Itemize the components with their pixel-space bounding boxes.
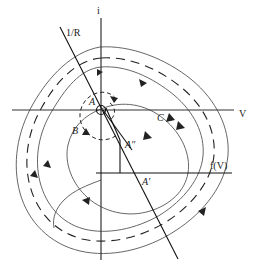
diagram-canvas: i V 1/R f(V) A B C A' A″: [0, 0, 257, 266]
flow-arrow-c: [166, 113, 175, 122]
axis-label-v: V: [239, 108, 247, 119]
flow-arrow-right-upper: [176, 121, 185, 130]
axis-label-i: i: [97, 5, 100, 16]
segment-origin-to-vertical: [106, 108, 120, 140]
flow-arrow-left: [30, 170, 38, 178]
flow-arrow-bottom: [82, 197, 90, 205]
flow-arrow-inner-right: [143, 131, 152, 140]
inner-spiral-tail: [53, 180, 101, 228]
label-point-a-double-prime: A″: [124, 139, 136, 150]
arc-arrow-a: [110, 96, 118, 103]
label-characteristic: f(V): [210, 160, 227, 172]
flow-arrow-top: [139, 79, 147, 87]
label-point-a-prime: A': [141, 176, 151, 187]
label-point-a: A: [88, 96, 96, 107]
label-point-b: B: [72, 125, 78, 136]
phase-plane-figure: i V 1/R f(V) A B C A' A″: [0, 0, 257, 266]
label-point-c: C: [157, 112, 164, 123]
load-line: [60, 27, 178, 259]
flow-arrow-top-left: [97, 69, 103, 76]
label-load-line: 1/R: [66, 27, 81, 38]
arc-arrow-b: [82, 128, 90, 135]
flow-arrow-left-inner: [43, 160, 51, 168]
